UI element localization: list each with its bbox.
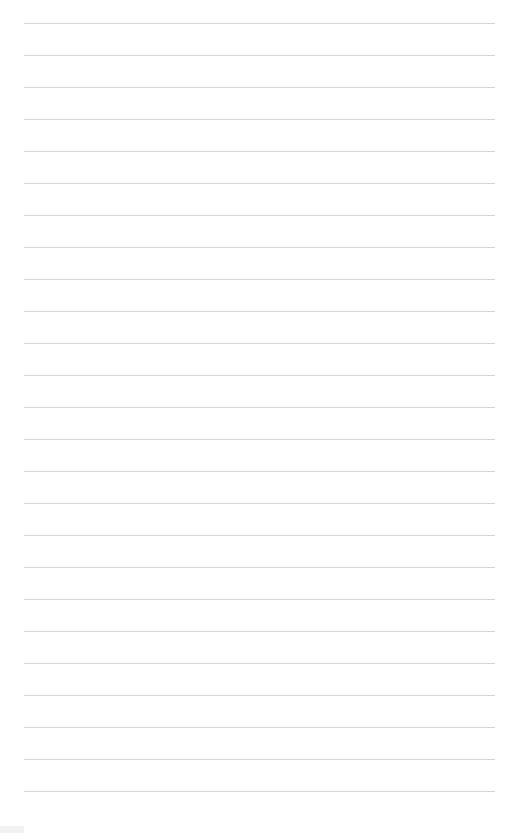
corner-smudge [0, 826, 24, 833]
ruled-line [24, 503, 495, 504]
ruled-line [24, 215, 495, 216]
ruled-line [24, 663, 495, 664]
ruled-line [24, 599, 495, 600]
ruled-line [24, 23, 495, 24]
ruled-line [24, 87, 495, 88]
ruled-line [24, 727, 495, 728]
ruled-line [24, 759, 495, 760]
ruled-line [24, 567, 495, 568]
ruled-line [24, 119, 495, 120]
ruled-line [24, 55, 495, 56]
ruled-line [24, 471, 495, 472]
ruled-line [24, 407, 495, 408]
ruled-line [24, 343, 495, 344]
ruled-line [24, 535, 495, 536]
ruled-line [24, 311, 495, 312]
ruled-line [24, 151, 495, 152]
ruled-lines [24, 23, 495, 823]
ruled-line [24, 791, 495, 792]
ruled-line [24, 439, 495, 440]
lined-paper-page [0, 0, 518, 833]
ruled-line [24, 279, 495, 280]
ruled-line [24, 695, 495, 696]
ruled-line [24, 631, 495, 632]
ruled-line [24, 375, 495, 376]
ruled-line [24, 183, 495, 184]
ruled-line [24, 247, 495, 248]
